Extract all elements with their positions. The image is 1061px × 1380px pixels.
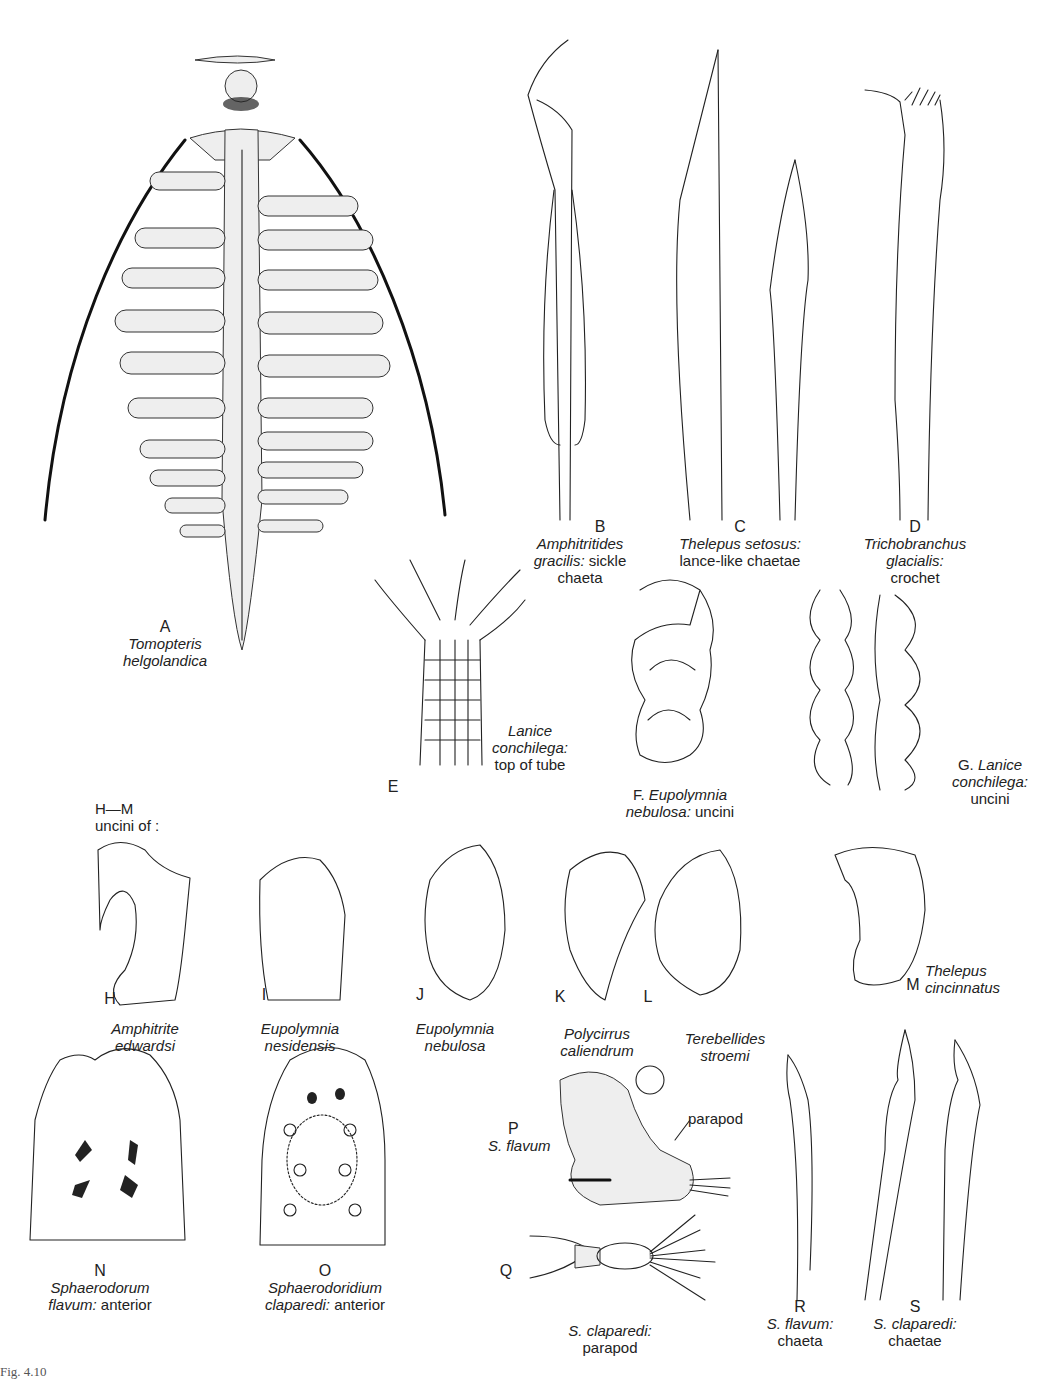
species-name: edwardsi bbox=[90, 1037, 200, 1054]
figure-caption: Fig. 4.10 bbox=[0, 1364, 47, 1380]
panel-s-label: S S. claparedi: chaetae bbox=[855, 1298, 975, 1349]
panel-letter: O bbox=[240, 1262, 410, 1279]
panel-letter: R bbox=[755, 1298, 845, 1315]
structure-label: anterior bbox=[97, 1296, 152, 1313]
panel-i-label: Eupolymnia nesidensis bbox=[245, 1020, 355, 1054]
panel-letter: C bbox=[660, 518, 820, 535]
chaeta-r-drawing bbox=[787, 1055, 812, 1300]
panel-e-label: Lanice conchilega: top of tube bbox=[480, 722, 580, 773]
species-name: nebulosa bbox=[400, 1037, 510, 1054]
panel-j-label: Eupolymnia nebulosa bbox=[400, 1020, 510, 1054]
species-name: S. flavum bbox=[488, 1137, 568, 1154]
panel-letter: B bbox=[515, 518, 645, 535]
panel-d-label: D Trichobranchus glacialis: crochet bbox=[850, 518, 980, 586]
species-name: Trichobranchus bbox=[850, 535, 980, 552]
species-name: Thelepus bbox=[925, 962, 1035, 979]
panel-letter: P bbox=[488, 1120, 568, 1137]
species-name: Terebellides bbox=[665, 1030, 785, 1047]
panel-n-label: N Sphaerodorum flavum: anterior bbox=[20, 1262, 180, 1313]
chaeta-d-drawing bbox=[865, 88, 944, 520]
species-name: conchilega: bbox=[480, 739, 580, 756]
structure-label: uncini bbox=[935, 790, 1045, 807]
tomopteris-drawing bbox=[45, 56, 445, 650]
species-name: Thelepus setosus: bbox=[660, 535, 820, 552]
species-name: conchilega: bbox=[935, 773, 1045, 790]
species-name: Tomopteris bbox=[105, 635, 225, 652]
sphaerodoridium-drawing bbox=[260, 1048, 385, 1246]
panel-g-label: G. Lanice conchilega: uncini bbox=[935, 756, 1045, 807]
species-name: nebulosa: bbox=[626, 803, 691, 820]
uncini-g-drawing bbox=[810, 590, 920, 790]
species-name: caliendrum bbox=[542, 1042, 652, 1059]
species-name: glacialis: bbox=[850, 552, 980, 569]
panel-h-label: Amphitrite edwardsi bbox=[90, 1020, 200, 1054]
parapod-q-drawing bbox=[530, 1215, 715, 1300]
species-name: Sphaerodorum bbox=[20, 1279, 180, 1296]
species-name: Eupolymnia bbox=[649, 786, 727, 803]
panel-a-label: A Tomopteris helgolandica bbox=[105, 618, 225, 669]
uncini-f-drawing bbox=[632, 580, 714, 763]
panel-o-label: O Sphaerodoridium claparedi: anterior bbox=[240, 1262, 410, 1313]
panel-q-letter: Q bbox=[496, 1262, 516, 1279]
panel-j-letter: J bbox=[412, 986, 428, 1003]
structure-label: anterior bbox=[330, 1296, 385, 1313]
chaeta-s-drawing bbox=[865, 1030, 980, 1300]
sphaerodorum-drawing bbox=[30, 1049, 185, 1240]
structure-label: chaeta bbox=[515, 569, 645, 586]
species-name: claparedi: bbox=[265, 1296, 330, 1313]
species-name: Amphitrite bbox=[90, 1020, 200, 1037]
species-name: S. claparedi: bbox=[550, 1322, 670, 1339]
panel-m-label: Thelepus cincinnatus bbox=[925, 962, 1035, 996]
panel-h-letter: H bbox=[102, 990, 118, 1007]
panel-letter: G. bbox=[958, 756, 974, 773]
structure-label: lance-like chaetae bbox=[660, 552, 820, 569]
structure-label: crochet bbox=[850, 569, 980, 586]
panel-c-label: C Thelepus setosus: lance-like chaetae bbox=[660, 518, 820, 569]
panel-letter: S bbox=[855, 1298, 975, 1315]
structure-label: parapod bbox=[550, 1339, 670, 1356]
chaeta-b-drawing bbox=[528, 40, 585, 520]
species-name: Sphaerodoridium bbox=[240, 1279, 410, 1296]
species-name: S. claparedi: bbox=[855, 1315, 975, 1332]
structure-label: chaeta bbox=[755, 1332, 845, 1349]
panel-b-label: B Amphitritides gracilis: sickle chaeta bbox=[515, 518, 645, 586]
species-name: helgolandica bbox=[105, 652, 225, 669]
parapod-p-drawing bbox=[560, 1066, 730, 1205]
structure-label: top of tube bbox=[480, 756, 580, 773]
structure-label: uncini bbox=[691, 803, 734, 820]
species-name: Polycirrus bbox=[542, 1025, 652, 1042]
panel-letter: D bbox=[850, 518, 980, 535]
species-name: Lanice bbox=[978, 756, 1022, 773]
species-name: nesidensis bbox=[245, 1037, 355, 1054]
panel-i-letter: I bbox=[256, 986, 272, 1003]
structure-label: uncini of : bbox=[95, 817, 195, 834]
species-name: gracilis: bbox=[534, 552, 585, 569]
panel-hm-heading: H—M uncini of : bbox=[95, 800, 195, 834]
panel-letter: N bbox=[20, 1262, 180, 1279]
panel-k-label: Polycirrus caliendrum bbox=[542, 1025, 652, 1059]
structure-label: chaetae bbox=[855, 1332, 975, 1349]
panel-q-label: S. claparedi: parapod bbox=[550, 1322, 670, 1356]
panel-l-label: Terebellides stroemi bbox=[665, 1030, 785, 1064]
species-name: Eupolymnia bbox=[245, 1020, 355, 1037]
panel-m-letter: M bbox=[905, 976, 921, 993]
panel-r-label: R S. flavum: chaeta bbox=[755, 1298, 845, 1349]
species-name: stroemi bbox=[665, 1047, 785, 1064]
species-name: Lanice bbox=[480, 722, 580, 739]
species-name: S. flavum: bbox=[755, 1315, 845, 1332]
species-name: cincinnatus bbox=[925, 979, 1035, 996]
chaeta-c-drawing bbox=[677, 50, 809, 520]
panel-letter: A bbox=[105, 618, 225, 635]
panel-p-label: P S. flavum bbox=[488, 1120, 568, 1154]
panel-letter: F. bbox=[633, 786, 645, 803]
uncini-h-m-drawings bbox=[98, 843, 925, 1006]
species-name: Eupolymnia bbox=[400, 1020, 510, 1037]
structure-label: sickle bbox=[585, 552, 627, 569]
species-name: flavum: bbox=[48, 1296, 96, 1313]
panel-k-letter: K bbox=[552, 988, 568, 1005]
species-name: Amphitritides bbox=[515, 535, 645, 552]
panel-e-letter: E bbox=[383, 778, 403, 795]
panel-letter: H—M bbox=[95, 800, 195, 817]
panel-l-letter: L bbox=[640, 988, 656, 1005]
